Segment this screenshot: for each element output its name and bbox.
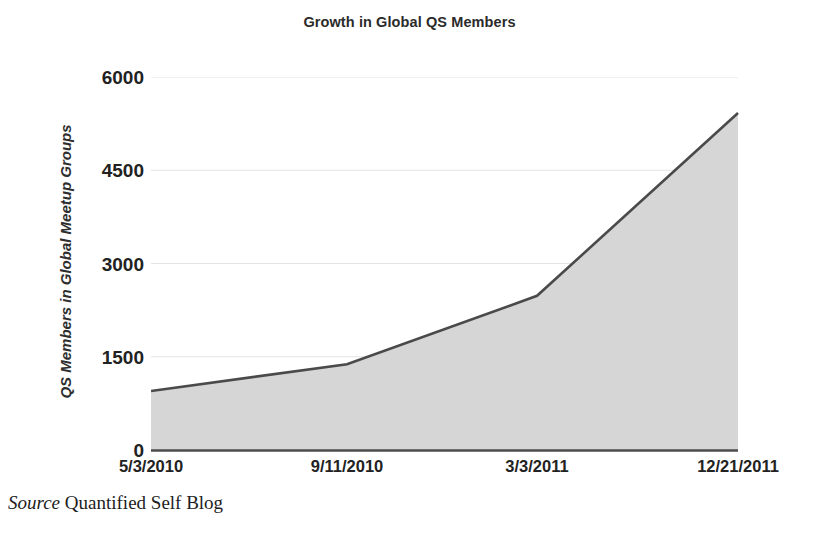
x-axis-tick-labels: 5/3/2010 9/11/2010 3/3/2011 12/21/2011 [0,458,819,484]
x-tick-label-3: 3/3/2011 [505,458,568,475]
y-tick-label-4500: 4500 [60,161,144,180]
y-tick-label-6000: 6000 [60,68,144,87]
x-tick-label-2: 9/11/2010 [311,458,384,475]
plot-area [151,77,738,450]
chart-figure: Growth in Global QS Members QS Members i… [0,0,819,533]
y-tick-label-3000: 3000 [60,255,144,274]
source-value: Quantified Self Blog [65,492,223,513]
source-note: Source Quantified Self Blog [8,492,223,514]
area-chart-svg [151,77,751,455]
x-tick-label-4: 12/21/2011 [697,458,779,475]
area-fill [151,113,738,450]
source-label: Source [8,492,60,513]
y-axis-tick-labels: 6000 4500 3000 1500 0 [52,0,144,533]
x-tick-label-1: 5/3/2010 [119,458,183,475]
y-tick-label-1500: 1500 [60,348,144,367]
